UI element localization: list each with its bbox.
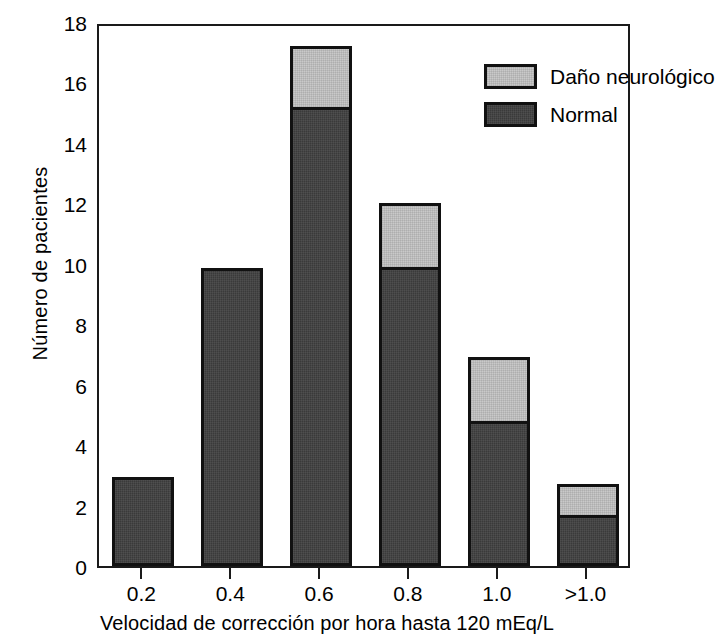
bar-segment-normal <box>290 107 352 566</box>
y-tick-label: 8 <box>41 315 87 336</box>
y-tick-label: 16 <box>41 73 87 94</box>
legend-label-normal: Normal <box>550 104 618 125</box>
bar-segment-normal <box>468 421 530 566</box>
x-tick-label: 0.6 <box>274 583 364 605</box>
bar-segment-damage <box>290 46 352 106</box>
plot-area: Daño neurológico Normal <box>97 24 630 568</box>
y-tick-label: 0 <box>41 557 87 578</box>
y-tick-label: 10 <box>41 255 87 276</box>
legend-swatch-damage <box>484 64 537 89</box>
bar-stack <box>201 22 263 566</box>
y-tick-label: 18 <box>41 13 87 34</box>
chart-legend: Daño neurológico Normal <box>484 60 715 136</box>
bar-segment-normal <box>112 477 174 566</box>
bar-stack <box>290 22 352 566</box>
bar-segment-damage <box>468 357 530 420</box>
y-tick-label: 2 <box>41 497 87 518</box>
bar-segment-damage <box>379 203 441 266</box>
x-tick-mark <box>407 566 409 579</box>
bar-segment-normal <box>201 268 263 566</box>
legend-item-damage: Daño neurológico <box>484 60 715 92</box>
x-axis-label: Velocidad de corrección por hora hasta 1… <box>0 612 654 635</box>
y-tick-label: 6 <box>41 376 87 397</box>
y-tick-label: 14 <box>41 134 87 155</box>
bar-segment-damage <box>557 484 619 514</box>
x-tick-mark <box>140 566 142 579</box>
x-tick-mark <box>318 566 320 579</box>
x-tick-label: >1.0 <box>541 583 631 605</box>
x-tick-label: 0.2 <box>96 583 186 605</box>
bar-stack <box>112 22 174 566</box>
bar-segment-normal <box>379 267 441 566</box>
x-tick-label: 1.0 <box>452 583 542 605</box>
legend-item-normal: Normal <box>484 98 715 130</box>
x-tick-label: 0.4 <box>185 583 275 605</box>
y-tick-label: 12 <box>41 194 87 215</box>
x-tick-mark <box>496 566 498 579</box>
legend-label-damage: Daño neurológico <box>550 66 715 87</box>
bar-stack <box>379 22 441 566</box>
y-tick-label: 4 <box>41 436 87 457</box>
x-tick-mark <box>585 566 587 579</box>
x-tick-label: 0.8 <box>363 583 453 605</box>
legend-swatch-normal <box>484 102 537 127</box>
x-tick-mark <box>229 566 231 579</box>
bar-segment-normal <box>557 515 619 566</box>
